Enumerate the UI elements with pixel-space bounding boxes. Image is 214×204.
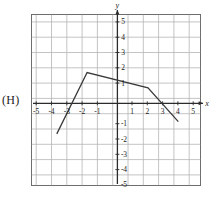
- xtick-3: 3: [161, 107, 165, 116]
- ytick--1: -1: [121, 119, 127, 128]
- grid-lines: [31, 14, 201, 186]
- ytick--2: -2: [121, 135, 127, 144]
- xtick-1: 1: [130, 107, 134, 116]
- xtick--1: -1: [94, 107, 100, 116]
- xtick--5: -5: [33, 107, 39, 116]
- ytick--4: -4: [121, 165, 127, 174]
- y-axis: [115, 10, 119, 184]
- axis-ticks: [36, 22, 193, 170]
- xtick-5: 5: [191, 107, 195, 116]
- graph-figure: (H): [0, 0, 214, 204]
- ytick--5: -5: [121, 180, 127, 189]
- ytick-5: 5: [121, 17, 125, 26]
- ytick--3: -3: [121, 150, 127, 159]
- x-axis-label: x: [204, 99, 209, 108]
- xtick--4: -4: [48, 107, 54, 116]
- ytick-4: 4: [121, 33, 125, 42]
- ytick-1: 1: [121, 79, 125, 88]
- y-axis-label: y: [115, 1, 120, 10]
- xtick--2: -2: [79, 107, 85, 116]
- plot-svg: -5 -4 -3 -2 -1 1 2 3 4 5 5 4 3 2 1 -1 -2…: [0, 0, 214, 204]
- ytick-2: 2: [121, 63, 125, 72]
- xtick--3: -3: [64, 107, 70, 116]
- ytick-3: 3: [121, 48, 125, 57]
- xtick-2: 2: [145, 107, 149, 116]
- xtick-4: 4: [176, 107, 180, 116]
